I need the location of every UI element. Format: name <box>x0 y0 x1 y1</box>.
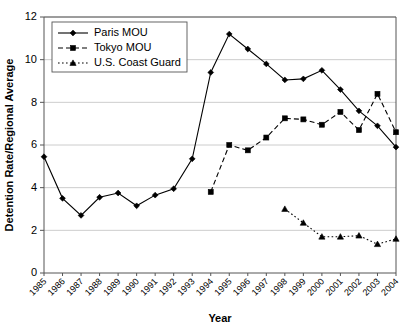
data-point-tokyo-mou-1997 <box>264 135 269 140</box>
data-point-tokyo-mou-1994 <box>208 189 213 194</box>
data-point-tokyo-mou-1998 <box>282 116 287 121</box>
y-tick-label-6: 6 <box>31 138 37 150</box>
chart-legend: Paris MOUTokyo MOUU.S. Coast Guard <box>52 22 187 72</box>
y-tick-label-8: 8 <box>31 96 37 108</box>
data-point-tokyo-mou-2000 <box>319 122 324 127</box>
y-tick-label-2: 2 <box>31 224 37 236</box>
data-point-tokyo-mou-2004 <box>394 130 399 135</box>
y-axis-title: Detention Rate/Regional Average <box>3 59 15 232</box>
legend-label-u-s-coast-guard: U.S. Coast Guard <box>94 56 181 68</box>
y-tick-label-0: 0 <box>31 266 37 278</box>
detention-rate-chart: 024681012 198519861987198819891990199119… <box>0 0 410 331</box>
legend-marker-tokyo-mou <box>71 46 76 51</box>
data-point-tokyo-mou-2003 <box>375 91 380 96</box>
data-point-tokyo-mou-1995 <box>227 143 232 148</box>
y-tick-label-10: 10 <box>25 53 37 65</box>
y-tick-label-12: 12 <box>25 10 37 22</box>
legend-label-tokyo-mou: Tokyo MOU <box>94 41 152 53</box>
legend-label-paris-mou: Paris MOU <box>94 26 148 38</box>
x-axis-title: Year <box>208 312 232 324</box>
data-point-tokyo-mou-2002 <box>356 128 361 133</box>
data-point-tokyo-mou-1996 <box>245 148 250 153</box>
data-point-tokyo-mou-2001 <box>338 109 343 114</box>
chart-canvas: 024681012 198519861987198819891990199119… <box>0 0 410 331</box>
y-tick-label-4: 4 <box>31 181 37 193</box>
data-point-tokyo-mou-1999 <box>301 117 306 122</box>
